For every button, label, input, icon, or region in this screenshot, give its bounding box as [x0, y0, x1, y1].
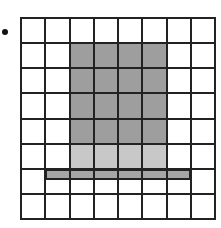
- grid-line-horizontal: [20, 143, 216, 145]
- grid-line-horizontal: [20, 193, 216, 195]
- grid-line-horizontal: [20, 92, 216, 94]
- grid-line-horizontal: [20, 67, 216, 69]
- bullet-icon: [2, 29, 8, 35]
- grid-diagram: [21, 18, 215, 219]
- grid-line-horizontal: [20, 218, 216, 220]
- grid-line-horizontal: [20, 118, 216, 120]
- grid-line-horizontal: [20, 17, 216, 19]
- grid-line-horizontal: [20, 168, 216, 170]
- grid-line-horizontal: [20, 42, 216, 44]
